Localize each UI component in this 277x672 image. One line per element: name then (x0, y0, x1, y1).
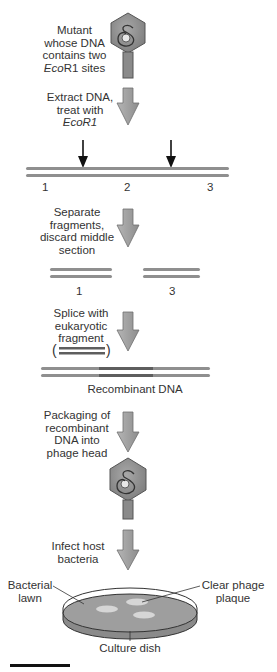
label-line: bacteria (48, 553, 108, 566)
step-label-mutant: Mutant whose DNA contains two EcoR1 site… (37, 24, 112, 74)
fragment-label-3: 3 (169, 285, 175, 297)
phage-icon (111, 13, 145, 78)
cut-sites (78, 140, 176, 168)
label-line: whose DNA (37, 37, 112, 50)
step-label-extract: Extract DNA, treat with EcoR1 (45, 91, 115, 129)
step-label-splice: Splice with eukaryotic fragment (50, 307, 112, 345)
label-line: fragments, (38, 219, 116, 232)
label-line: Extract DNA, (45, 91, 115, 104)
label-line: Packaging of (42, 409, 112, 422)
bacterial-lawn-label: Bacterial lawn (6, 579, 54, 604)
step-label-packaging: Packaging of recombinant DNA into phage … (42, 409, 112, 459)
label-line: treat with (45, 104, 115, 117)
scale-bar (10, 664, 70, 667)
label-line: lawn (6, 592, 54, 605)
label-line: fragment (50, 332, 112, 345)
label-line: Infect host (48, 540, 108, 553)
dna-double-strand (26, 167, 229, 177)
label-line: Separate (38, 206, 116, 219)
plaque (126, 599, 148, 606)
label-line: discard middle (38, 231, 116, 244)
plaque (133, 612, 155, 619)
label-line: plaque (200, 592, 266, 605)
label-line: DNA into (42, 434, 112, 447)
process-arrow (117, 209, 139, 247)
plaque (96, 606, 118, 613)
label-line: eukaryotic (50, 320, 112, 333)
label-line: contains two (37, 49, 112, 62)
segment-label-3: 3 (207, 181, 213, 193)
recombinant-phage-icon (110, 458, 146, 519)
process-arrow (117, 530, 139, 570)
label-line: phage head (42, 447, 112, 460)
segment-label-2: 2 (124, 181, 130, 193)
dna-fragment-1 (50, 268, 112, 278)
label-line: section (38, 244, 116, 257)
culture-dish-label: Culture dish (90, 642, 170, 655)
label-line: Mutant (37, 24, 112, 37)
step-label-infect: Infect host bacteria (48, 540, 108, 565)
label-line: Splice with (50, 307, 112, 320)
label-line: EcoR1 (45, 116, 115, 129)
process-arrow (117, 88, 139, 125)
process-arrow (117, 412, 139, 452)
label-line: recombinant (42, 422, 112, 435)
label-line: Clear phage (200, 579, 266, 592)
recombinant-dna-label: Recombinant DNA (75, 383, 195, 396)
phage-plaque-label: Clear phage plaque (200, 579, 266, 604)
segment-label-1: 1 (42, 181, 48, 193)
fragment-label-1: 1 (76, 285, 82, 297)
dna-fragment-3 (143, 268, 200, 278)
label-line: Bacterial (6, 579, 54, 592)
step-label-separate: Separate fragments, discard middle secti… (38, 206, 116, 256)
label-line: EcoR1 sites (37, 62, 112, 75)
recombinant-dna (41, 367, 210, 377)
process-arrow (117, 312, 139, 351)
diagram-canvas: ( ) (0, 0, 277, 672)
